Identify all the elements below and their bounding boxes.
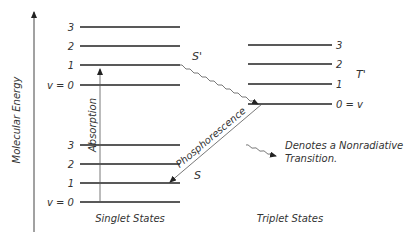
triplet-levels: 3 2 1 0 = v T' [248,40,366,110]
singlet-upper-label: S' [192,50,202,63]
intersystem-crossing-wavy-arrow [180,65,258,104]
energy-axis: Molecular Energy [11,12,34,232]
singlet-upper-level-3: 3 [68,22,74,33]
triplet-label: T' [356,68,366,81]
phosphorescence-transition: Phosphorescence [170,104,262,182]
singlet-states-title: Singlet States [95,213,165,224]
absorption-label: Absorption [87,98,98,153]
triplet-level-1: 1 [336,79,342,90]
legend-line-1: Denotes a Nonradiative [285,140,403,151]
singlet-upper-level-2: 2 [68,41,74,52]
triplet-level-3: 3 [336,40,342,51]
singlet-lower-level-2: 2 [68,159,74,170]
singlet-lower-level-1: 1 [68,178,74,189]
triplet-level-0: 0 = v [336,99,364,110]
axis-label: Molecular Energy [11,75,22,163]
singlet-lower-level-0: v = 0 [47,197,74,208]
absorption-transition: Absorption [87,69,100,202]
triplet-states-title: Triplet States [257,213,323,224]
singlet-upper-levels: 3 2 1 v = 0 S' [47,22,202,91]
singlet-lower-level-3: 3 [68,140,74,151]
singlet-lower-levels: 3 2 1 v = 0 S [47,140,201,208]
phosphorescence-label: Phosphorescence [174,105,248,170]
singlet-lower-label: S [194,169,201,182]
jablonski-diagram: Molecular Energy 3 2 1 v = 0 S' 3 2 1 v … [0,0,414,235]
triplet-level-2: 2 [336,59,342,70]
legend: Denotes a Nonradiative Transition. [246,140,403,164]
singlet-upper-level-0: v = 0 [47,80,74,91]
singlet-upper-level-1: 1 [68,60,74,71]
wavy-arrow-icon [246,145,276,156]
legend-line-2: Transition. [285,153,337,164]
